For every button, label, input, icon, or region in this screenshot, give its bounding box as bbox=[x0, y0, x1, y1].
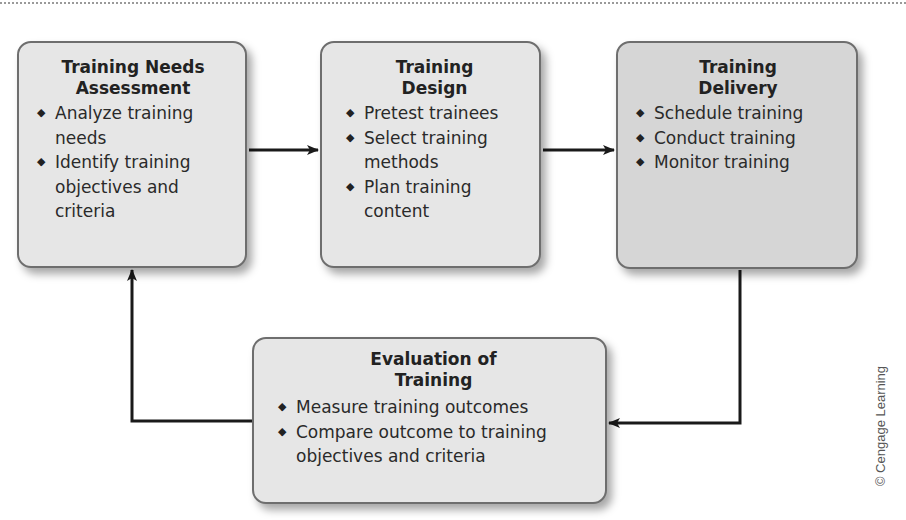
list-item: ◆Schedule training bbox=[632, 101, 844, 126]
diamond-bullet-icon: ◆ bbox=[278, 395, 286, 420]
item-text: Select training methods bbox=[364, 128, 488, 173]
item-text: Pretest trainees bbox=[364, 103, 498, 123]
arrow-evaluation-to-assessment bbox=[132, 270, 252, 421]
box-title: Training Delivery bbox=[632, 57, 844, 99]
item-text: Plan training content bbox=[364, 177, 471, 222]
title-line: Training bbox=[632, 57, 844, 78]
list-item: ◆Identify training objectives and criter… bbox=[33, 150, 233, 224]
diamond-bullet-icon: ◆ bbox=[37, 150, 45, 175]
item-list: ◆Analyze training needs ◆Identify traini… bbox=[33, 101, 233, 224]
copyright-credit: © Cengage Learning bbox=[873, 366, 888, 486]
item-text: Identify training objectives and criteri… bbox=[55, 152, 190, 221]
item-text: Schedule training bbox=[654, 103, 803, 123]
item-list: ◆Pretest trainees ◆Select training metho… bbox=[342, 101, 527, 224]
title-line: Training Needs bbox=[33, 57, 233, 78]
diamond-bullet-icon: ◆ bbox=[346, 175, 354, 200]
title-line: Training bbox=[274, 370, 593, 391]
item-text: Compare outcome to training objectives a… bbox=[296, 422, 547, 467]
list-item: ◆Compare outcome to training objectives … bbox=[274, 420, 593, 469]
box-title: Training Design bbox=[342, 57, 527, 99]
list-item: ◆Monitor training bbox=[632, 150, 844, 175]
arrow-delivery-to-evaluation bbox=[609, 270, 740, 423]
box-title: Training Needs Assessment bbox=[33, 57, 233, 99]
diamond-bullet-icon: ◆ bbox=[636, 126, 644, 151]
title-line: Evaluation of bbox=[274, 349, 593, 370]
title-line: Assessment bbox=[33, 78, 233, 99]
box-training-needs-assessment: Training Needs Assessment ◆Analyze train… bbox=[17, 41, 247, 268]
diamond-bullet-icon: ◆ bbox=[346, 126, 354, 151]
item-list: ◆Schedule training ◆Conduct training ◆Mo… bbox=[632, 101, 844, 175]
list-item: ◆Measure training outcomes bbox=[274, 395, 593, 420]
item-list: ◆Measure training outcomes ◆Compare outc… bbox=[274, 395, 593, 469]
diamond-bullet-icon: ◆ bbox=[278, 420, 286, 445]
list-item: ◆Select training methods bbox=[342, 126, 527, 175]
box-title: Evaluation of Training bbox=[274, 349, 593, 391]
list-item: ◆Conduct training bbox=[632, 126, 844, 151]
title-line: Design bbox=[342, 78, 527, 99]
title-line: Training bbox=[342, 57, 527, 78]
diamond-bullet-icon: ◆ bbox=[636, 101, 644, 126]
item-text: Conduct training bbox=[654, 128, 796, 148]
diamond-bullet-icon: ◆ bbox=[346, 101, 354, 126]
list-item: ◆Pretest trainees bbox=[342, 101, 527, 126]
item-text: Measure training outcomes bbox=[296, 397, 528, 417]
box-training-design: Training Design ◆Pretest trainees ◆Selec… bbox=[320, 41, 541, 268]
box-training-delivery: Training Delivery ◆Schedule training ◆Co… bbox=[616, 41, 858, 269]
list-item: ◆Plan training content bbox=[342, 175, 527, 224]
diamond-bullet-icon: ◆ bbox=[636, 150, 644, 175]
box-evaluation-of-training: Evaluation of Training ◆Measure training… bbox=[252, 337, 607, 504]
item-text: Analyze training needs bbox=[55, 103, 193, 148]
item-text: Monitor training bbox=[654, 152, 790, 172]
diamond-bullet-icon: ◆ bbox=[37, 101, 45, 126]
title-line: Delivery bbox=[632, 78, 844, 99]
list-item: ◆Analyze training needs bbox=[33, 101, 233, 150]
